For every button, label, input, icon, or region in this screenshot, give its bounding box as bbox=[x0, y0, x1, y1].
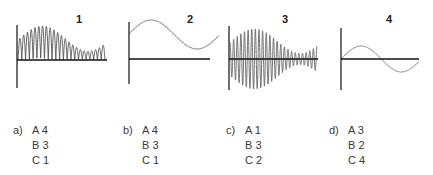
option-pair: A 4 bbox=[142, 123, 159, 138]
waveform-graphs bbox=[0, 0, 433, 100]
option-pairs: A 4 B 3 C 1 bbox=[142, 123, 159, 168]
graph-3 bbox=[229, 26, 318, 90]
option-pairs: A 4 B 3 C 1 bbox=[32, 123, 49, 168]
option-pair: B 3 bbox=[32, 138, 49, 153]
option-letter: c) bbox=[226, 123, 235, 138]
option-pair: C 1 bbox=[32, 153, 49, 168]
graph-2-label: 2 bbox=[187, 14, 193, 25]
option-pair: B 3 bbox=[245, 138, 262, 153]
option-pairs: A 3 B 2 C 4 bbox=[348, 123, 365, 168]
option-letter: d) bbox=[329, 123, 339, 138]
graph-2 bbox=[129, 19, 219, 84]
option-pair: C 1 bbox=[142, 153, 159, 168]
option-pair: A 1 bbox=[245, 123, 262, 138]
graph-3-label: 3 bbox=[282, 14, 288, 25]
graph-1-label: 1 bbox=[76, 14, 82, 25]
option-letter: b) bbox=[123, 123, 133, 138]
option-pair: B 3 bbox=[142, 138, 159, 153]
option-pair: A 3 bbox=[348, 123, 365, 138]
option-letter: a) bbox=[13, 123, 23, 138]
option-pair: B 2 bbox=[348, 138, 365, 153]
option-pair: C 4 bbox=[348, 153, 365, 168]
graph-4-label: 4 bbox=[386, 14, 392, 25]
graph-4 bbox=[341, 28, 419, 90]
option-pair: C 2 bbox=[245, 153, 262, 168]
graph-1-waveform bbox=[18, 26, 105, 60]
graph-2-waveform bbox=[129, 19, 219, 49]
option-pair: A 4 bbox=[32, 123, 49, 138]
option-pairs: A 1 B 3 C 2 bbox=[245, 123, 262, 168]
graph-1 bbox=[17, 25, 107, 88]
